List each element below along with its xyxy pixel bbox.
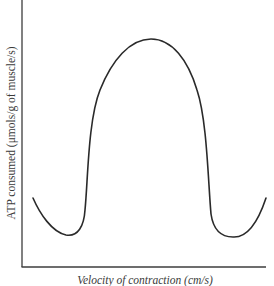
x-axis-label: Velocity of contraction (cm/s) (77, 274, 213, 286)
atp-curve (33, 39, 266, 237)
y-axis-label: ATP consumed (μmols/g of muscle/s) (5, 46, 17, 219)
